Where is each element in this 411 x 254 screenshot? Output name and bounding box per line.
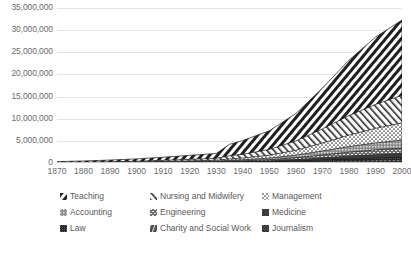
dense-hatch-icon — [60, 193, 67, 200]
x-axis-tick-label: 1950 — [260, 166, 279, 176]
x-axis-tick-label: 1920 — [180, 166, 199, 176]
fine-hatch-icon — [150, 193, 157, 200]
x-axis-tick-label: 1880 — [74, 166, 93, 176]
y-axis-tick-label: 35,000,000 — [11, 3, 53, 12]
x-axis-line — [57, 162, 402, 163]
x-axis-tick-label: 1910 — [154, 166, 173, 176]
x-axis-tick-label: 1890 — [101, 166, 120, 176]
legend-label: Journalism — [272, 223, 313, 233]
x-axis-tick-label: 1940 — [233, 166, 252, 176]
legend-item-charity-and-social-work[interactable]: Charity and Social Work — [150, 223, 251, 233]
micro-dot-icon — [60, 225, 67, 232]
solid-dark-icon — [262, 209, 269, 216]
legend-item-medicine[interactable]: Medicine — [262, 207, 306, 217]
x-axis-tick-label: 1980 — [339, 166, 358, 176]
legend-item-nursing-and-midwifery[interactable]: Nursing and Midwifery — [150, 191, 244, 201]
x-axis-tick-label: 1960 — [286, 166, 305, 176]
y-axis-tick-label: 20,000,000 — [11, 69, 53, 78]
legend-row: AccountingEngineeringMedicine — [0, 204, 407, 220]
x-axis-tick-label: 2000 — [393, 166, 411, 176]
y-axis-tick-label: 15,000,000 — [11, 92, 53, 101]
legend-item-management[interactable]: Management — [262, 191, 322, 201]
legend-item-law[interactable]: Law — [60, 223, 86, 233]
legend-row: LawCharity and Social WorkJournalism — [0, 220, 407, 236]
legend-label: Charity and Social Work — [160, 223, 251, 233]
area-chart-svg — [57, 8, 402, 163]
sparse-dot-icon — [262, 193, 269, 200]
legend-item-journalism[interactable]: Journalism — [262, 223, 313, 233]
legend-label: Nursing and Midwifery — [160, 191, 244, 201]
legend-label: Engineering — [160, 207, 205, 217]
cross-dash-icon — [150, 209, 157, 216]
y-axis-tick-label: 10,000,000 — [11, 114, 53, 123]
chart-legend: TeachingNursing and MidwiferyManagementA… — [0, 188, 407, 250]
plot-area — [57, 8, 402, 163]
legend-label: Law — [70, 223, 86, 233]
legend-label: Medicine — [272, 207, 306, 217]
y-axis-tick-label: 5,000,000 — [16, 136, 53, 145]
y-axis-tick-label: 30,000,000 — [11, 25, 53, 34]
checker-dark-icon — [262, 225, 269, 232]
x-axis-labels: 1870188018901900191019201930194019501960… — [57, 166, 402, 178]
legend-label: Teaching — [70, 191, 104, 201]
y-axis-tick-label: 25,000,000 — [11, 47, 53, 56]
x-axis-tick-label: 1870 — [48, 166, 67, 176]
x-axis-tick-label: 1970 — [313, 166, 332, 176]
x-axis-tick-label: 1990 — [366, 166, 385, 176]
legend-item-accounting[interactable]: Accounting — [60, 207, 112, 217]
legend-item-teaching[interactable]: Teaching — [60, 191, 104, 201]
legend-label: Management — [272, 191, 322, 201]
y-axis-labels: 05,000,00010,000,00015,000,00020,000,000… — [0, 0, 53, 171]
legend-item-engineering[interactable]: Engineering — [150, 207, 205, 217]
stacked-area-series — [57, 8, 402, 163]
x-axis-tick-label: 1900 — [127, 166, 146, 176]
x-axis-tick-label: 1930 — [207, 166, 226, 176]
light-stipple-icon — [60, 209, 67, 216]
legend-label: Accounting — [70, 207, 112, 217]
wavy-hatch-icon — [150, 225, 157, 232]
legend-row: TeachingNursing and MidwiferyManagement — [0, 188, 407, 204]
